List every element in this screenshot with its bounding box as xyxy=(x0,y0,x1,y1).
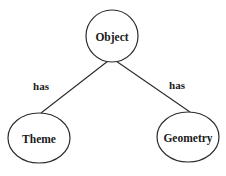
node-object: Object xyxy=(86,10,138,62)
edge-object-theme xyxy=(41,61,108,113)
node-geometry-label: Geometry xyxy=(163,132,212,145)
node-geometry: Geometry xyxy=(157,112,219,162)
node-object-label: Object xyxy=(95,31,128,44)
node-theme: Theme xyxy=(8,113,70,163)
relationship-diagram: has has Object Theme Geometry xyxy=(0,0,226,176)
edge-label-object-geometry: has xyxy=(169,79,186,91)
edge-label-object-theme: has xyxy=(33,80,50,92)
node-theme-label: Theme xyxy=(22,133,56,145)
